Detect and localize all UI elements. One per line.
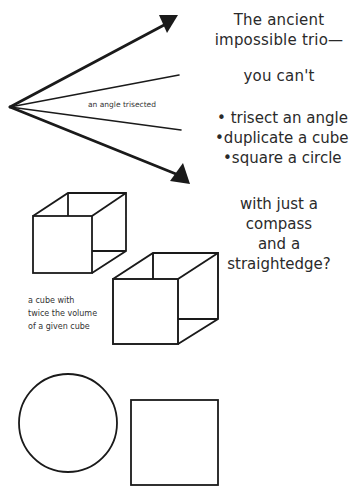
heading-line-2: impossible trio— <box>205 30 353 50</box>
heading-line-3: you can't <box>205 66 353 86</box>
closing-line-1: with just a <box>205 194 353 214</box>
angle-label: an angle trisected <box>88 100 156 109</box>
closing-line-2: compass <box>205 214 353 234</box>
circle-shape <box>19 374 117 472</box>
square-shape <box>131 400 218 485</box>
given-cube <box>33 193 126 273</box>
heading-block: The ancient impossible trio— you can't <box>205 10 353 86</box>
problem-item: • trisect an angle <box>215 108 353 128</box>
bullet-icon: • <box>215 129 224 147</box>
problem-item: •square a circle <box>215 148 353 168</box>
angle-ray-lower <box>10 107 176 174</box>
closing-line-3: and a <box>205 234 353 254</box>
closing-line-4: straightedge? <box>205 254 353 274</box>
problems-list: • trisect an angle •duplicate a cube •sq… <box>215 108 353 168</box>
cube-label: a cube with twice the volume of a given … <box>28 294 97 333</box>
angle-ray-upper <box>10 24 166 107</box>
bullet-icon: • <box>217 109 226 127</box>
problem-item: •duplicate a cube <box>215 128 353 148</box>
bullet-icon: • <box>223 149 232 167</box>
doubled-cube <box>113 253 218 344</box>
trisected-angle <box>10 24 181 174</box>
closing-question: with just a compass and a straightedge? <box>205 194 353 274</box>
heading-line-1: The ancient <box>205 10 353 30</box>
arrowhead-upper-icon <box>159 15 178 33</box>
